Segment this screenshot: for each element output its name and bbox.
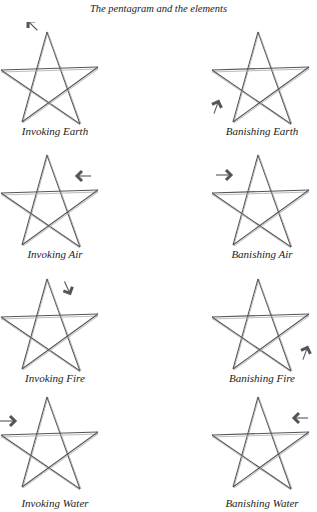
pentagram-invoking-water: Invoking Water	[0, 393, 110, 512]
label-invoking-fire: Invoking Fire	[0, 372, 110, 384]
label-invoking-air: Invoking Air	[0, 248, 110, 260]
pentagram-icon	[0, 22, 110, 127]
pentagram-icon	[207, 393, 317, 498]
arrow-up-icon	[209, 100, 223, 116]
label-invoking-water: Invoking Water	[0, 497, 110, 509]
arrow-right-icon	[0, 416, 15, 426]
pentagram-icon	[207, 22, 317, 127]
pentagram-icon	[0, 145, 110, 250]
pentagram-icon	[0, 269, 110, 374]
arrow-down-left-icon	[25, 22, 41, 34]
pentagram-icon	[207, 269, 317, 374]
pentagram-banishing-water: Banishing Water	[207, 393, 317, 512]
arrow-right-icon	[216, 170, 231, 180]
pentagram-invoking-fire: Invoking Fire	[0, 269, 110, 394]
arrow-up-icon	[298, 346, 312, 362]
label-invoking-earth: Invoking Earth	[0, 125, 110, 137]
label-banishing-fire: Banishing Fire	[207, 372, 317, 384]
arrow-down-right-icon	[60, 279, 75, 295]
label-banishing-earth: Banishing Earth	[207, 125, 317, 137]
pentagram-invoking-air: Invoking Air	[0, 145, 110, 270]
diagram-title: The pentagram and the elements	[0, 3, 317, 14]
pentagram-banishing-earth: Banishing Earth	[207, 22, 317, 147]
arrow-left-icon	[294, 413, 308, 423]
arrow-left-icon	[77, 171, 91, 181]
pentagram-icon	[207, 145, 317, 250]
pentagram-invoking-earth: Invoking Earth	[0, 22, 110, 147]
pentagram-banishing-fire: Banishing Fire	[207, 269, 317, 394]
pentagram-banishing-air: Banishing Air	[207, 145, 317, 270]
label-banishing-air: Banishing Air	[207, 248, 317, 260]
label-banishing-water: Banishing Water	[207, 497, 317, 509]
pentagram-icon	[0, 393, 110, 498]
